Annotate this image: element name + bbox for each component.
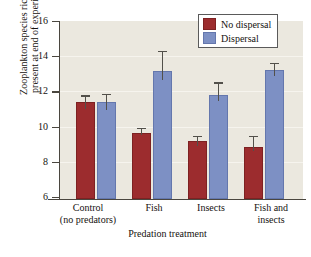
legend-swatch-dispersal bbox=[203, 32, 216, 44]
bar-fish-no-dispersal bbox=[132, 133, 151, 199]
y-axis-title-line2: present at end of experiment bbox=[29, 0, 41, 93]
errorbar-cap-insects-no-dispersal bbox=[193, 136, 202, 137]
x-tick-label-control-line2: (no predators) bbox=[40, 214, 136, 226]
x-tick-label-control: Control (no predators) bbox=[40, 202, 136, 226]
x-axis-line bbox=[48, 199, 306, 200]
x-tick-label-fish-and-insects-line1: Fish and bbox=[236, 202, 306, 214]
errorbar-fish-dispersal bbox=[162, 52, 163, 79]
errorbar-cap-fish-and-insects-no-dispersal bbox=[249, 136, 258, 137]
errorbar-control-no-dispersal bbox=[85, 96, 86, 109]
x-tick-label-fish-line1: Fish bbox=[125, 202, 183, 214]
errorbar-cap-control-no-dispersal bbox=[81, 95, 90, 96]
legend-item-no-dispersal: No dispersal bbox=[203, 18, 271, 30]
y-tick-14 bbox=[52, 56, 59, 57]
y-tick-label-14: 14 bbox=[26, 50, 48, 61]
errorbar-fish-and-insects-dispersal bbox=[274, 64, 275, 76]
bar-control-no-dispersal bbox=[76, 102, 95, 199]
y-tick-label-12: 12 bbox=[26, 85, 48, 96]
errorbar-control-dispersal bbox=[106, 94, 107, 110]
bar-insects-dispersal bbox=[209, 95, 228, 199]
x-tick-label-insects: Insects bbox=[180, 202, 242, 214]
x-tick-label-fish-and-insects: Fish and insects bbox=[236, 202, 306, 226]
errorbar-cap-fish-no-dispersal bbox=[137, 128, 146, 129]
y-tick-10 bbox=[52, 127, 59, 128]
legend-label-no-dispersal: No dispersal bbox=[221, 19, 271, 30]
bar-fish-dispersal bbox=[153, 71, 172, 199]
errorbar-insects-dispersal bbox=[218, 83, 219, 100]
y-tick-label-10: 10 bbox=[26, 121, 48, 132]
bar-fish-and-insects-dispersal bbox=[265, 70, 284, 199]
y-tick-label-8: 8 bbox=[26, 156, 48, 167]
x-tick-label-control-line1: Control bbox=[40, 202, 136, 214]
x-tick-label-insects-line1: Insects bbox=[180, 202, 242, 214]
y-tick-12 bbox=[52, 91, 59, 92]
y-tick-8 bbox=[52, 162, 59, 163]
errorbar-fish-and-insects-no-dispersal bbox=[253, 137, 254, 151]
chart-figure: Zooplankton species richness present at … bbox=[0, 0, 311, 257]
legend-swatch-no-dispersal bbox=[203, 18, 216, 30]
legend-item-dispersal: Dispersal bbox=[203, 32, 271, 44]
gridline-14 bbox=[60, 56, 303, 57]
x-axis-title: Predation treatment bbox=[0, 228, 311, 239]
bar-control-dispersal bbox=[97, 102, 116, 199]
errorbar-fish-no-dispersal bbox=[141, 129, 142, 135]
bar-insects-no-dispersal bbox=[188, 141, 207, 199]
errorbar-insects-no-dispersal bbox=[197, 137, 198, 146]
y-tick-label-6: 6 bbox=[26, 191, 48, 202]
errorbar-cap-fish-and-insects-dispersal bbox=[270, 63, 279, 64]
errorbar-cap-control-dispersal bbox=[102, 94, 111, 95]
x-tick-label-fish: Fish bbox=[125, 202, 183, 214]
x-tick-label-fish-and-insects-line2: insects bbox=[236, 214, 306, 226]
x-axis-title-text: Predation treatment bbox=[128, 228, 207, 239]
bar-fish-and-insects-no-dispersal bbox=[244, 147, 263, 199]
y-tick-16 bbox=[52, 21, 59, 22]
errorbar-cap-insects-dispersal bbox=[214, 82, 223, 83]
legend-label-dispersal: Dispersal bbox=[221, 33, 259, 44]
chart-legend: No dispersal Dispersal bbox=[198, 14, 278, 48]
errorbar-cap-fish-dispersal bbox=[158, 51, 167, 52]
y-tick-6 bbox=[52, 197, 59, 198]
y-tick-label-16: 16 bbox=[26, 15, 48, 26]
